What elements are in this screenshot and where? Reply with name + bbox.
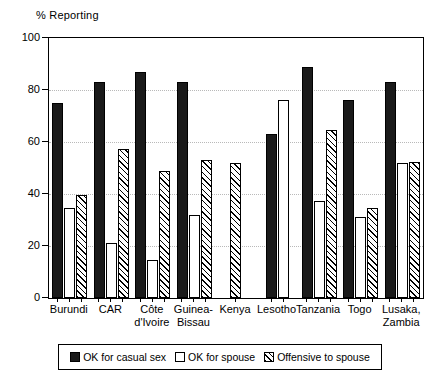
bar-group [91, 38, 133, 298]
x-axis-tick [330, 298, 331, 302]
y-axis-tick [42, 245, 48, 246]
x-axis-tick [283, 298, 284, 302]
y-axis-tick-label: 20 [6, 240, 40, 251]
y-axis-tick [42, 141, 48, 142]
bar [106, 243, 117, 298]
bar [135, 72, 146, 298]
bar [189, 215, 200, 298]
x-axis-tick [235, 298, 236, 302]
bar [266, 134, 277, 298]
x-axis-tick [57, 298, 58, 302]
bar [397, 163, 408, 298]
bar [343, 100, 354, 298]
x-axis-tick [98, 298, 99, 302]
bar [118, 149, 129, 299]
x-axis-tick [152, 298, 153, 302]
bar-group [174, 38, 216, 298]
x-axis-tick [372, 298, 373, 302]
bar-group [132, 38, 174, 298]
bar [230, 163, 241, 298]
bar [314, 201, 325, 299]
x-axis-tick [360, 298, 361, 302]
bar-group [215, 38, 257, 298]
bar [385, 82, 396, 298]
bar [278, 100, 289, 298]
bar-group [257, 38, 299, 298]
y-axis-tick-label: 60 [6, 136, 40, 147]
bar [76, 195, 87, 298]
x-axis-tick [401, 298, 402, 302]
bar-chart: % Reporting OK for casual sexOK for spou… [0, 0, 438, 384]
y-axis-tick-label: 80 [6, 84, 40, 95]
bar-group [340, 38, 382, 298]
bar [367, 208, 378, 298]
y-axis-title: % Reporting [36, 9, 99, 21]
legend-label: OK for casual sex [83, 351, 166, 363]
chart-legend: OK for casual sexOK for spouseOffensive … [58, 344, 382, 370]
x-axis-tick [318, 298, 319, 302]
legend-swatch-hatch-icon [264, 352, 274, 362]
bars-layer [49, 38, 423, 298]
x-axis-tick [348, 298, 349, 302]
y-axis-tick-label: 40 [6, 188, 40, 199]
legend-label: OK for spouse [188, 351, 255, 363]
legend-swatch-white-icon [175, 352, 185, 362]
x-axis-tick [205, 298, 206, 302]
plot-area [48, 37, 424, 299]
y-axis-tick [42, 297, 48, 298]
legend-entry: OK for spouse [175, 351, 255, 363]
y-axis-tick [42, 193, 48, 194]
y-axis-tick [42, 37, 48, 38]
x-axis-tick [389, 298, 390, 302]
bar [94, 82, 105, 298]
bar [52, 103, 63, 298]
x-axis-tick [181, 298, 182, 302]
bar [355, 217, 366, 298]
y-axis-tick-label: 0 [6, 292, 40, 303]
x-axis-tick-label: Lusaka, Zambia [374, 303, 428, 328]
bar [177, 82, 188, 298]
legend-label: Offensive to spouse [277, 351, 370, 363]
bar [64, 208, 75, 298]
bar-group [49, 38, 91, 298]
y-axis-tick-label: 100 [6, 32, 40, 43]
bar [201, 160, 212, 298]
x-axis-tick [110, 298, 111, 302]
bar [159, 171, 170, 298]
legend-entry: OK for casual sex [70, 351, 166, 363]
x-axis-tick [306, 298, 307, 302]
x-axis-tick [69, 298, 70, 302]
x-axis-tick [81, 298, 82, 302]
legend-entry: Offensive to spouse [264, 351, 370, 363]
x-axis-tick [413, 298, 414, 302]
x-axis-tick [164, 298, 165, 302]
x-axis-tick [271, 298, 272, 302]
legend-swatch-black-icon [70, 352, 80, 362]
bar [302, 67, 313, 298]
x-axis-tick [140, 298, 141, 302]
x-axis-tick [122, 298, 123, 302]
bar [147, 260, 158, 298]
bar-group [298, 38, 340, 298]
x-axis-tick [193, 298, 194, 302]
bar [326, 130, 337, 298]
bar [409, 162, 420, 299]
y-axis-tick [42, 89, 48, 90]
bar-group [381, 38, 423, 298]
